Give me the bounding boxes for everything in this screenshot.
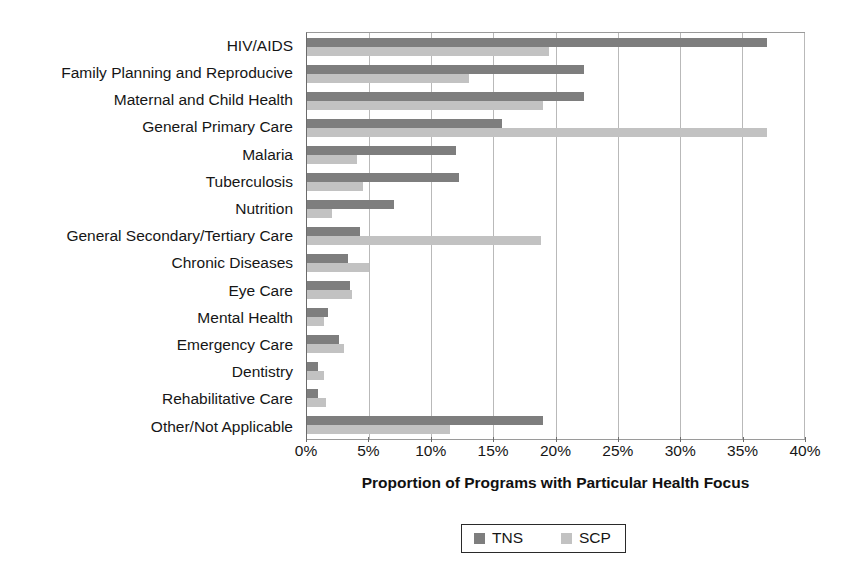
category-label: Mental Health xyxy=(0,304,300,331)
category-label: Maternal and Child Health xyxy=(0,86,300,113)
legend-swatch-icon xyxy=(561,533,572,544)
bar-group xyxy=(307,141,804,168)
bar-group xyxy=(307,304,804,331)
bar-scp xyxy=(307,317,324,326)
bar-tns xyxy=(307,335,339,344)
bar-group xyxy=(307,168,804,195)
bar-tns xyxy=(307,173,459,182)
bar-tns xyxy=(307,281,350,290)
health-focus-bar-chart: HIV/AIDSFamily Planning and ReproduciveM… xyxy=(0,0,863,574)
bar-scp xyxy=(307,128,767,137)
chart-legend: TNSSCP xyxy=(461,524,626,553)
x-tick-label: 5% xyxy=(357,442,379,460)
bar-group xyxy=(307,222,804,249)
bar-group xyxy=(307,60,804,87)
x-tick-label: 25% xyxy=(602,442,633,460)
bar-scp xyxy=(307,101,543,110)
bar-scp xyxy=(307,74,469,83)
x-tick-label: 30% xyxy=(665,442,696,460)
x-tick-label: 0% xyxy=(295,442,317,460)
bar-scp xyxy=(307,290,352,299)
category-label: Chronic Diseases xyxy=(0,250,300,277)
bar-scp xyxy=(307,209,332,218)
bar-tns xyxy=(307,146,456,155)
x-axis-title: Proportion of Programs with Particular H… xyxy=(306,474,805,492)
bar-group xyxy=(307,250,804,277)
x-tick-label: 35% xyxy=(727,442,758,460)
category-label: General Secondary/Tertiary Care xyxy=(0,222,300,249)
category-label: Other/Not Applicable xyxy=(0,413,300,440)
legend-label: TNS xyxy=(492,529,523,547)
category-label: General Primary Care xyxy=(0,114,300,141)
bar-group xyxy=(307,331,804,358)
category-axis: HIV/AIDSFamily Planning and ReproduciveM… xyxy=(0,32,300,440)
x-axis-ticks: 0%5%10%15%20%25%30%35%40% xyxy=(306,442,805,466)
bar-tns xyxy=(307,227,360,236)
bar-group xyxy=(307,385,804,412)
bar-group xyxy=(307,412,804,439)
bar-tns xyxy=(307,254,348,263)
bar-tns xyxy=(307,38,767,47)
category-label: Family Planning and Reproducive xyxy=(0,59,300,86)
bar-scp xyxy=(307,263,369,272)
bar-tns xyxy=(307,200,394,209)
bar-tns xyxy=(307,362,318,371)
x-tick-label: 15% xyxy=(478,442,509,460)
x-tick-label: 10% xyxy=(415,442,446,460)
category-label: Dentistry xyxy=(0,358,300,385)
bar-tns xyxy=(307,308,328,317)
bar-tns xyxy=(307,65,584,74)
legend-swatch-icon xyxy=(474,533,485,544)
bar-tns xyxy=(307,119,502,128)
bar-group xyxy=(307,358,804,385)
category-label: Emergency Care xyxy=(0,331,300,358)
plot-area xyxy=(306,32,805,440)
bar-tns xyxy=(307,92,584,101)
bar-scp xyxy=(307,155,357,164)
bar-scp xyxy=(307,344,344,353)
category-label: Nutrition xyxy=(0,195,300,222)
legend-entry-scp[interactable]: SCP xyxy=(561,529,611,547)
x-tick-label: 20% xyxy=(540,442,571,460)
bars-layer xyxy=(307,33,804,439)
bar-group xyxy=(307,195,804,222)
category-label: Rehabilitative Care xyxy=(0,386,300,413)
gridline xyxy=(804,33,805,439)
bar-scp xyxy=(307,398,326,407)
bar-scp xyxy=(307,236,541,245)
bar-scp xyxy=(307,425,450,434)
bar-group xyxy=(307,114,804,141)
bar-tns xyxy=(307,416,543,425)
bar-group xyxy=(307,277,804,304)
bar-group xyxy=(307,33,804,60)
bar-scp xyxy=(307,47,549,56)
bar-group xyxy=(307,87,804,114)
legend-entry-tns[interactable]: TNS xyxy=(474,529,523,547)
category-label: Malaria xyxy=(0,141,300,168)
bar-scp xyxy=(307,182,363,191)
category-label: HIV/AIDS xyxy=(0,32,300,59)
x-tick-label: 40% xyxy=(789,442,820,460)
bar-scp xyxy=(307,371,324,380)
legend-label: SCP xyxy=(579,529,611,547)
category-label: Eye Care xyxy=(0,277,300,304)
category-label: Tuberculosis xyxy=(0,168,300,195)
bar-tns xyxy=(307,389,318,398)
